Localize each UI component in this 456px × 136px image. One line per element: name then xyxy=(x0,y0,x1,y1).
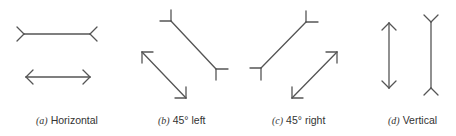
caption-a-text: Horizontal xyxy=(51,114,98,126)
caption-a: (a)Horizontal xyxy=(36,114,98,126)
panel-b-fins-line xyxy=(160,10,228,80)
panel-c-arrow-line xyxy=(292,52,337,98)
panel-d-fins-line xyxy=(424,15,438,95)
caption-d-label: (d) xyxy=(388,115,400,126)
caption-d: (d)Vertical xyxy=(388,114,437,126)
panel-c-fins-line xyxy=(250,11,318,80)
caption-a-label: (a) xyxy=(36,115,48,126)
caption-b-label: (b) xyxy=(158,115,170,126)
caption-c-text: 45° right xyxy=(286,114,325,126)
panel-b-arrow-line xyxy=(142,52,186,98)
panel-a-fins-line xyxy=(17,27,97,41)
caption-d-text: Vertical xyxy=(403,114,437,126)
panel-d-arrow-line xyxy=(382,23,396,88)
caption-c: (c)45° right xyxy=(272,114,325,126)
caption-b: (b)45° left xyxy=(158,114,205,126)
panel-a-arrow-line xyxy=(26,70,90,84)
caption-c-label: (c) xyxy=(272,115,283,126)
caption-b-text: 45° left xyxy=(173,114,206,126)
